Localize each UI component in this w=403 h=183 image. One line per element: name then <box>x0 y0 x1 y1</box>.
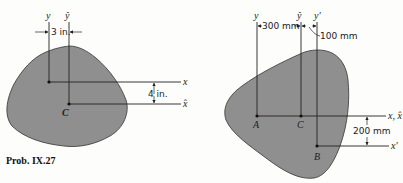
left-dim-horizontal: 3 in. <box>51 27 71 37</box>
left-x-label: x <box>182 76 188 87</box>
right-y-prime-label: y′ <box>313 10 321 21</box>
right-x-prime-label: x′ <box>390 140 398 151</box>
left-centroid-label: C <box>62 107 69 118</box>
problem-caption: Prob. IX.27 <box>6 155 56 166</box>
right-centroid-label: C <box>297 119 304 130</box>
left-dim-vertical: 4 in. <box>148 89 168 99</box>
right-figure: y ŷ y′ x, x̂ x′ A C B 300 mm 100 mm 200 … <box>225 10 403 178</box>
point-b <box>315 144 318 147</box>
left-y-label: y <box>45 10 51 21</box>
left-centroid-point <box>67 102 70 105</box>
left-x-hat-label: x̂ <box>182 98 188 109</box>
right-centroid-point <box>299 114 302 117</box>
right-x-label: x, x̂ <box>387 110 402 121</box>
right-dim-horizontal-2: 100 mm <box>320 31 358 41</box>
left-origin-point <box>47 80 50 83</box>
right-shape <box>225 50 349 178</box>
diagram-canvas: y ŷ x x̂ C 3 in. 4 in. Prob. IX.27 y ŷ y… <box>0 0 403 183</box>
right-dim-100-leader <box>309 27 320 36</box>
point-a-label: A <box>252 119 260 130</box>
point-b-label: B <box>314 151 320 162</box>
right-y-label: y <box>253 10 259 21</box>
left-y-hat-label: ŷ <box>64 10 70 21</box>
right-y-hat-label: ŷ <box>296 10 302 21</box>
left-figure: y ŷ x x̂ C 3 in. 4 in. Prob. IX.27 <box>6 10 188 166</box>
point-a <box>255 114 258 117</box>
left-shape <box>7 46 127 147</box>
right-dim-vertical: 200 mm <box>353 126 391 136</box>
right-dim-horizontal-1: 300 mm <box>262 21 300 31</box>
